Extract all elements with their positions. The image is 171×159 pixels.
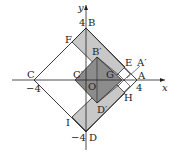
label-C: C bbox=[27, 69, 35, 80]
label-C-prime: C′ bbox=[73, 69, 84, 80]
diagram: y x 4 B F B′ E A′ C C′ G A −4 O 4 H D′ I… bbox=[0, 0, 171, 159]
label-A-prime: A′ bbox=[136, 57, 147, 68]
tick-x-neg: −4 bbox=[26, 83, 41, 94]
label-F: F bbox=[65, 34, 72, 45]
label-D: D bbox=[89, 132, 97, 143]
label-O: O bbox=[88, 81, 96, 92]
label-B: B bbox=[88, 17, 95, 28]
y-axis-label: y bbox=[77, 2, 84, 13]
tick-y-neg: −4 bbox=[71, 132, 86, 143]
y-axis-arrow-icon bbox=[84, 5, 88, 10]
label-E: E bbox=[125, 57, 132, 68]
x-axis-label: x bbox=[162, 82, 168, 93]
tick-x-pos: 4 bbox=[136, 82, 142, 93]
label-I: I bbox=[66, 117, 70, 128]
label-H: H bbox=[124, 92, 133, 103]
label-D-prime: D′ bbox=[97, 104, 108, 115]
label-B-prime: B′ bbox=[92, 46, 102, 57]
label-G: G bbox=[106, 69, 114, 80]
diagram-canvas: y x 4 B F B′ E A′ C C′ G A −4 O 4 H D′ I… bbox=[0, 0, 171, 159]
tick-y-pos: 4 bbox=[79, 17, 85, 28]
label-A: A bbox=[137, 70, 146, 81]
